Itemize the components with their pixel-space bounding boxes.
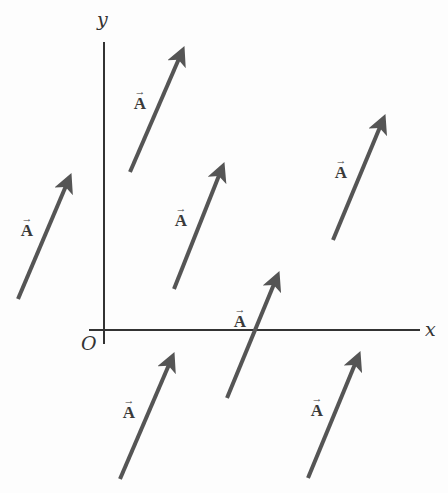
vector-diagram: y x O →A→A→A→A→A→A→A [0, 0, 448, 493]
vector-a-label-1: →A [132, 88, 148, 112]
vector-symbol: A [123, 403, 135, 422]
vector-a-label-5: →A [232, 306, 248, 330]
vector-symbol: A [335, 163, 347, 182]
vector-a-arrow-5 [227, 278, 277, 398]
vector-symbol: A [234, 312, 246, 331]
vector-symbol: A [175, 211, 187, 230]
origin-label: O [81, 334, 97, 353]
vector-a-label-4: →A [333, 157, 349, 181]
diagram-graphics [0, 0, 448, 493]
vector-a-label-2: →A [19, 215, 35, 239]
vector-symbol: A [311, 401, 323, 420]
vector-a-label-3: →A [173, 205, 189, 229]
vectors-group [18, 53, 383, 479]
y-axis-label: y [97, 10, 108, 29]
vector-symbol: A [134, 94, 146, 113]
vector-a-label-7: →A [309, 395, 325, 419]
x-axis-label: x [425, 320, 436, 339]
vector-symbol: A [21, 221, 33, 240]
vector-a-label-6: →A [121, 397, 137, 421]
